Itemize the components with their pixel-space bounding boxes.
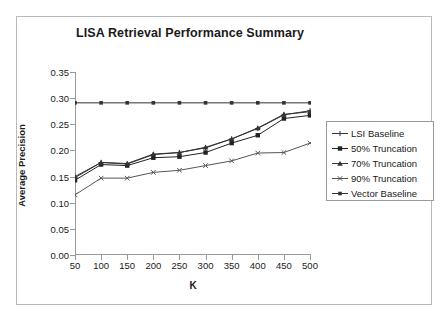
series-4 — [75, 141, 311, 197]
data-point-marker-square — [203, 150, 207, 154]
y-tick-label: 0.25 — [35, 119, 69, 130]
y-tick-label: 0.30 — [35, 93, 69, 104]
y-tick-label: 0.05 — [35, 223, 69, 234]
y-tick-label: 0.10 — [35, 197, 69, 208]
data-point-marker-square-small — [152, 101, 156, 105]
legend-marker-triangle-icon — [331, 158, 349, 169]
data-point-marker-square-small — [282, 101, 286, 105]
data-point-marker-square-small — [125, 101, 129, 105]
legend-marker-cross-icon — [331, 173, 349, 184]
legend-item-4[interactable]: 90% Truncation — [331, 171, 430, 186]
data-point-marker-square-small — [256, 101, 260, 105]
data-point-marker-square — [338, 146, 342, 150]
data-point-marker-square-small — [204, 101, 208, 105]
x-axis-title: K — [75, 280, 311, 291]
y-axis-title: Average Precision — [16, 101, 27, 231]
legend-item-5[interactable]: Vector Baseline — [331, 186, 430, 201]
data-point-marker-square — [282, 116, 286, 120]
y-tick-label: 0.35 — [35, 67, 69, 78]
data-point-marker-plus — [337, 131, 342, 136]
legend-marker-square-icon — [331, 143, 349, 154]
legend-label: 90% Truncation — [349, 173, 417, 184]
data-point-marker-square-small — [178, 101, 182, 105]
data-point-marker-square-small — [99, 101, 103, 105]
data-point-marker-square-small — [230, 101, 234, 105]
series-5 — [75, 101, 311, 105]
legend-item-3[interactable]: 70% Truncation — [331, 156, 430, 171]
data-point-marker-cross — [75, 193, 77, 198]
series-2 — [75, 113, 311, 182]
chart-screenshot: LISA Retrieval Performance Summary Avera… — [0, 0, 444, 324]
series-canvas — [75, 72, 311, 255]
series-line — [75, 143, 310, 195]
data-point-marker-square-small — [338, 192, 342, 196]
legend-marker-square-small-icon — [331, 188, 349, 199]
data-point-marker-square-small — [75, 101, 77, 105]
legend-label: 50% Truncation — [349, 143, 417, 154]
legend-item-1[interactable]: LSI Baseline — [331, 126, 430, 141]
legend-label: Vector Baseline — [349, 188, 417, 199]
legend-item-2[interactable]: 50% Truncation — [331, 141, 430, 156]
chart-legend: LSI Baseline50% Truncation70% Truncation… — [326, 121, 434, 201]
data-point-marker-square — [177, 155, 181, 159]
legend-marker-plus-icon — [331, 128, 349, 139]
y-axis-tick-labels: 0.000.050.100.150.200.250.300.35 — [33, 72, 69, 255]
plot-area — [75, 72, 311, 255]
series-line — [75, 115, 310, 180]
data-point-marker-square — [229, 141, 233, 145]
y-tick-label: 0.20 — [35, 145, 69, 156]
legend-label: 70% Truncation — [349, 158, 417, 169]
data-point-marker-square-small — [308, 101, 311, 105]
y-tick-label: 0.15 — [35, 171, 69, 182]
y-tick-label: 0.00 — [35, 250, 69, 261]
chart-title: LISA Retrieval Performance Summary — [40, 26, 340, 40]
legend-label: LSI Baseline — [349, 128, 404, 139]
data-point-marker-cross — [308, 141, 311, 146]
data-point-marker-square — [256, 133, 260, 137]
x-tick-label: 500 — [290, 260, 330, 271]
series-line — [75, 112, 310, 177]
x-axis-tick-labels: 50100150200250300350400450500 — [75, 260, 311, 276]
